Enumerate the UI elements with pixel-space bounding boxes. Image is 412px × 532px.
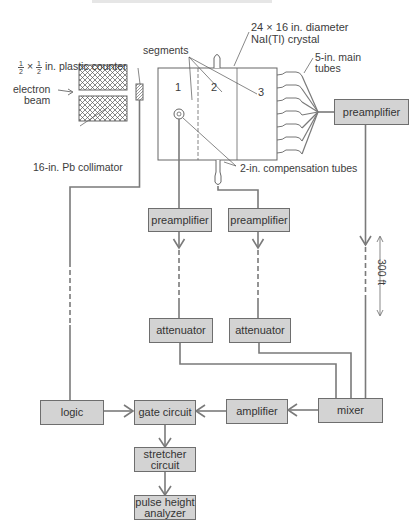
electron-beam-label-line2: beam	[24, 95, 50, 106]
preamplifier-main-block: preamplifier	[334, 99, 409, 125]
segment-3-label: 3	[258, 86, 264, 98]
compensation-tubes-label: 2-in. compensation tubes	[240, 163, 357, 174]
pulse-height-analyzer-block: pulse height analyzer	[134, 495, 196, 520]
crystal-label-line2: NaI(Tl) crystal	[251, 34, 319, 45]
amplifier-block: amplifier	[226, 399, 288, 424]
segments-label: segments	[143, 45, 189, 56]
collimator-lower	[79, 96, 127, 121]
gate-circuit-block: gate circuit	[134, 400, 196, 425]
fraction-half: 12	[18, 60, 24, 75]
segment-2-label: 2	[211, 81, 217, 93]
distance-label: 300 ft	[376, 259, 388, 285]
attenuator-1-block: attenuator	[149, 318, 213, 343]
attenuator-2-block: attenuator	[229, 318, 291, 343]
mixer-block: mixer	[318, 398, 383, 423]
crystal-label: 24 × 16 in. diameter	[251, 22, 349, 33]
main-tubes-label-line2: tubes	[315, 63, 341, 74]
preamplifier-1-block: preamplifier	[148, 208, 212, 232]
collimator-label: 16-in. Pb collimator	[33, 162, 123, 173]
stretcher-circuit-block: stretcher circuit	[134, 447, 196, 472]
segment-1-label: 1	[175, 81, 181, 93]
preamplifier-2-block: preamplifier	[228, 208, 290, 232]
logic-block: logic	[40, 400, 104, 425]
plastic-counter-label: 12 × 12 in. plastic counter	[18, 60, 127, 75]
wiring-diagram	[0, 0, 412, 532]
plastic-counter	[136, 84, 143, 100]
fraction-half: 12	[36, 60, 42, 75]
